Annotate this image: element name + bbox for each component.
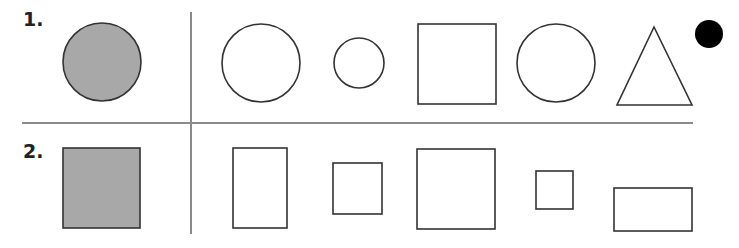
option-2-circle-shape [334,38,384,88]
option-3-square-shape [418,24,496,104]
option-4-square-shape [536,171,573,209]
option-5-triangle-shape [617,27,692,105]
row-1-shapes [63,23,692,105]
option-1-rect-shape [233,148,287,228]
black-dot-marker [695,20,723,48]
option-3-square-shape [417,149,495,229]
row-2-shapes [63,148,692,231]
reference-circle-shape [63,23,141,101]
option-1-circle-shape [222,24,300,102]
option-2-square-shape [333,163,382,214]
shapes-canvas [0,0,739,248]
option-5-rect-shape [614,188,692,231]
option-4-circle-shape [517,24,595,102]
reference-square-shape [63,148,140,228]
